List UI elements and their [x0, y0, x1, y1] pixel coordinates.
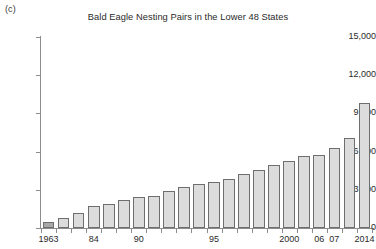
x-tick-mark	[222, 229, 223, 233]
y-tick-mark	[36, 228, 40, 229]
bar	[43, 222, 55, 228]
bar	[88, 206, 100, 228]
x-tick-label: 90	[134, 234, 144, 244]
x-tick-mark	[312, 229, 313, 233]
bar	[298, 156, 310, 228]
bar	[344, 138, 356, 228]
x-tick-label: 2014	[354, 234, 374, 244]
x-tick-mark	[282, 229, 283, 233]
x-tick-label: 84	[89, 234, 99, 244]
bar-series	[41, 37, 372, 228]
y-tick-mark	[36, 37, 40, 38]
bar	[359, 103, 371, 228]
bar	[163, 191, 175, 228]
bar	[253, 170, 265, 228]
x-tick-label: 07	[329, 234, 339, 244]
bar	[208, 182, 220, 228]
y-tick-mark	[36, 190, 40, 191]
x-tick-mark	[237, 229, 238, 233]
x-tick-mark	[41, 229, 42, 233]
bar	[178, 187, 190, 228]
x-tick-mark	[146, 229, 147, 233]
x-tick-mark	[191, 229, 192, 233]
x-tick-mark	[207, 229, 208, 233]
bar	[268, 165, 280, 228]
bar	[313, 155, 325, 228]
figure-panel: (c) Bald Eagle Nesting Pairs in the Lowe…	[0, 0, 376, 249]
x-tick-mark	[327, 229, 328, 233]
x-tick-mark	[342, 229, 343, 233]
x-tick-mark	[131, 229, 132, 233]
bar	[238, 174, 250, 228]
y-tick-mark	[36, 152, 40, 153]
bar	[148, 196, 160, 228]
x-tick-mark	[267, 229, 268, 233]
bar	[103, 204, 115, 228]
bar	[58, 218, 70, 228]
x-tick-mark	[176, 229, 177, 233]
x-tick-mark	[56, 229, 57, 233]
x-tick-label: 06	[314, 234, 324, 244]
x-tick-mark	[297, 229, 298, 233]
x-tick-mark	[357, 229, 358, 233]
bar	[283, 161, 295, 228]
chart-title: Bald Eagle Nesting Pairs in the Lower 48…	[0, 12, 376, 22]
x-tick-label: 2000	[279, 234, 299, 244]
x-tick-label: 1963	[39, 234, 59, 244]
x-tick-mark	[161, 229, 162, 233]
x-tick-mark	[101, 229, 102, 233]
bar	[133, 197, 145, 228]
x-tick-mark	[86, 229, 87, 233]
x-tick-mark	[372, 229, 373, 233]
x-tick-mark	[71, 229, 72, 233]
y-tick-mark	[36, 75, 40, 76]
x-tick-mark	[252, 229, 253, 233]
bar	[223, 179, 235, 228]
x-tick-mark	[116, 229, 117, 233]
y-tick-mark	[36, 113, 40, 114]
bar	[73, 213, 85, 228]
bar	[118, 200, 130, 228]
x-tick-label: 95	[209, 234, 219, 244]
bar	[193, 184, 205, 228]
bar	[329, 148, 341, 228]
